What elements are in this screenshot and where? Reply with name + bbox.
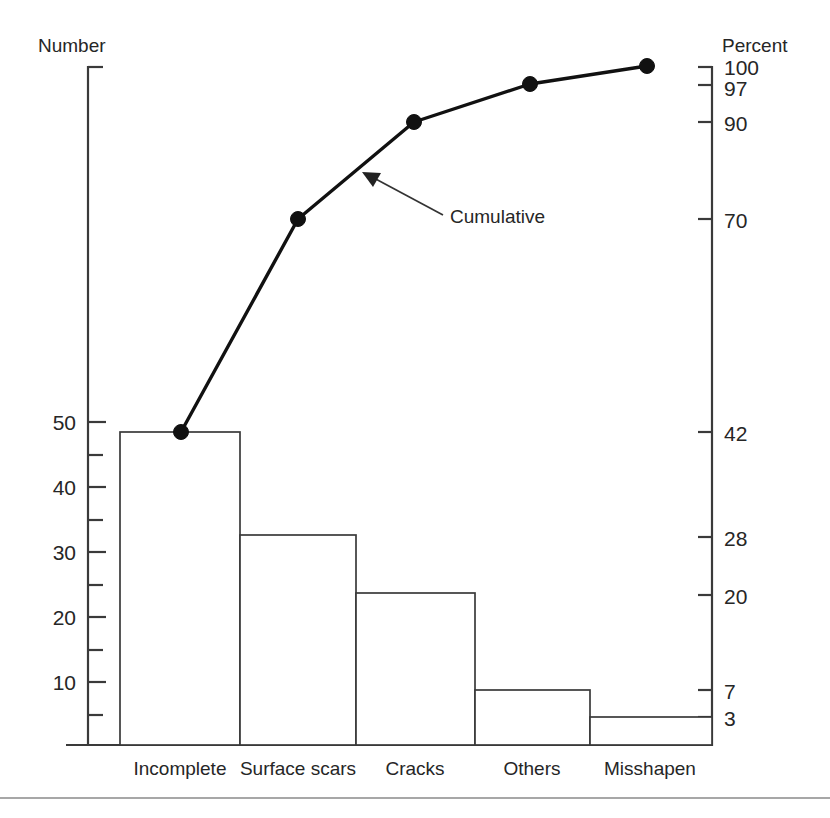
right-tick-label-3: 3 <box>724 707 736 730</box>
bar-misshapen[interactable] <box>590 717 712 745</box>
cumulative-annotation: Cumulative <box>362 172 545 227</box>
right-axis-title: Percent <box>722 35 788 56</box>
pareto-chart: Number Percent 50 40 30 <box>0 0 830 818</box>
bar-incomplete[interactable] <box>120 432 240 745</box>
right-tick-label-7: 7 <box>724 680 736 703</box>
category-label-others: Others <box>503 758 560 779</box>
right-axis-ticks <box>698 67 712 717</box>
bar-surface-scars[interactable] <box>240 535 356 745</box>
left-tick-label-20: 20 <box>53 606 76 629</box>
cumulative-annotation-label: Cumulative <box>450 206 545 227</box>
right-tick-label-100: 100 <box>724 56 759 79</box>
category-label-cracks: Cracks <box>385 758 444 779</box>
right-tick-label-97: 97 <box>724 77 747 100</box>
left-axis-ticks <box>88 67 106 715</box>
right-tick-label-42: 42 <box>724 422 747 445</box>
left-tick-label-10: 10 <box>53 671 76 694</box>
right-tick-label-90: 90 <box>724 112 747 135</box>
bar-group <box>120 432 712 745</box>
category-label-incomplete: Incomplete <box>134 758 227 779</box>
cumulative-point-misshapen[interactable] <box>640 59 655 74</box>
category-label-misshapen: Misshapen <box>604 758 696 779</box>
left-axis-title: Number <box>38 35 106 56</box>
cumulative-leader-line <box>372 177 443 215</box>
left-tick-label-50: 50 <box>53 411 76 434</box>
bar-cracks[interactable] <box>356 593 475 745</box>
cumulative-point-incomplete[interactable] <box>174 425 189 440</box>
cumulative-point-cracks[interactable] <box>407 115 422 130</box>
right-tick-label-28: 28 <box>724 527 747 550</box>
right-tick-label-20: 20 <box>724 585 747 608</box>
category-label-surface-scars: Surface scars <box>240 758 356 779</box>
cumulative-point-surface-scars[interactable] <box>291 212 306 227</box>
cumulative-point-others[interactable] <box>523 77 538 92</box>
bar-others[interactable] <box>475 690 590 745</box>
left-tick-label-30: 30 <box>53 541 76 564</box>
cumulative-markers <box>174 59 655 440</box>
left-tick-label-40: 40 <box>53 476 76 499</box>
right-tick-label-70: 70 <box>724 209 747 232</box>
pareto-chart-page: Number Percent 50 40 30 <box>0 0 830 818</box>
